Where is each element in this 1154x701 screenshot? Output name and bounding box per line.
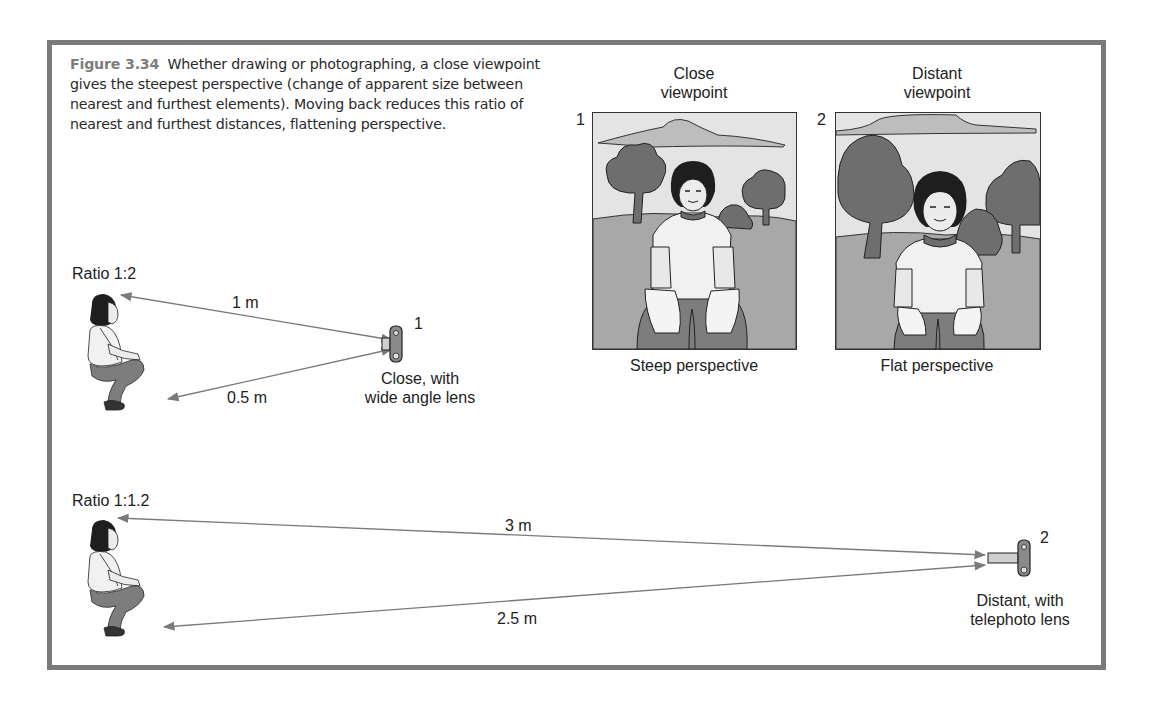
subject-figure-1 — [88, 294, 144, 410]
arrow-near-2 — [164, 565, 985, 627]
near-distance-label-2: 2.5 m — [497, 609, 537, 628]
ratio-label-2: Ratio 1:1.2 — [72, 491, 149, 510]
camera-index-2: 2 — [1040, 528, 1049, 547]
subject-figure-2 — [88, 520, 144, 636]
camera-label-2-line2: telephoto lens — [940, 610, 1100, 629]
camera-label-1-line2: wide angle lens — [340, 388, 500, 407]
near-distance-label-1: 0.5 m — [227, 388, 267, 407]
far-distance-label-1: 1 m — [232, 293, 259, 312]
camera-label-2-line1: Distant, with — [940, 591, 1100, 610]
ratio-label-1: Ratio 1:2 — [72, 264, 136, 283]
camera-wide-angle-icon — [382, 326, 402, 362]
camera-label-1-line1: Close, with — [340, 369, 500, 388]
camera-label-1: Close, with wide angle lens — [340, 369, 500, 407]
far-distance-label-2: 3 m — [505, 516, 532, 535]
camera-label-2: Distant, with telephoto lens — [940, 591, 1100, 629]
arrow-far-2 — [118, 518, 985, 555]
camera-telephoto-icon — [988, 540, 1030, 576]
camera-index-1: 1 — [414, 314, 423, 333]
